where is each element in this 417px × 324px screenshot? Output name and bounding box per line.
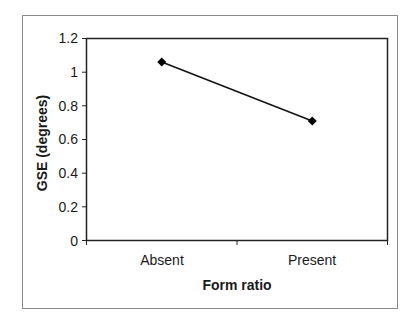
plot-area [87,39,388,241]
x-axis-title: Form ratio [137,278,337,292]
y-axis-title: GSE (degrees) [35,83,49,203]
y-tick-label: 1 [38,65,78,79]
chart-plot [0,0,417,324]
y-tick-label: 1.2 [38,31,78,45]
y-tick-label: 0 [38,234,78,248]
x-category-label-present: Present [262,253,362,267]
x-category-label-absent: Absent [112,253,212,267]
